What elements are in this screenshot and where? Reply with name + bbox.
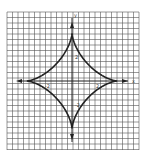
y-axis-label: y	[74, 12, 77, 19]
x-axis-arrow-right	[122, 79, 128, 83]
x-axis-arrow-left	[16, 79, 22, 83]
x-axis-label: x	[132, 78, 135, 84]
y-axis-arrow-down	[70, 134, 74, 140]
y-tick-neg2: -2	[75, 102, 80, 108]
y-tick-2: 2	[75, 54, 78, 60]
x-tick-2: 2	[96, 83, 99, 89]
astroid-plot: x y -2 2 2 -2	[0, 0, 144, 158]
x-tick-neg2: -2	[45, 83, 50, 89]
